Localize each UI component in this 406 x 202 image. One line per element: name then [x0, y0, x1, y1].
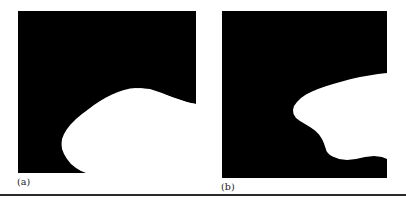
- panel-b-caption: (b): [221, 181, 235, 192]
- figure-container: (a) (b): [0, 0, 406, 202]
- figure-panel-b: [222, 11, 387, 178]
- panel-b-image: [222, 11, 387, 178]
- figure-panel-a: [18, 11, 196, 173]
- panel-a-caption: (a): [17, 176, 30, 187]
- panel-a-image: [18, 11, 196, 173]
- footer-horizontal-rule: [0, 194, 406, 196]
